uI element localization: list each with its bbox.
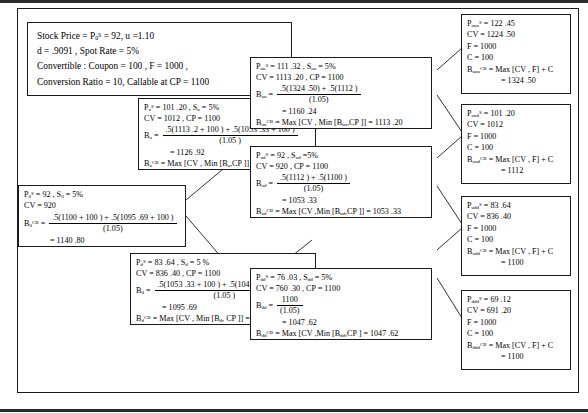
node-ddd-cv: CV = 691 .20	[467, 305, 565, 316]
node-udd-c: C = 100	[467, 234, 565, 245]
node-ddd-b: BdddCB = Max [CV , F] + C	[467, 340, 565, 351]
node-ddd-c: C = 100	[467, 328, 565, 339]
node-ud-cv: CV = 920 , CP = 1100	[256, 161, 426, 172]
node-dd-denominator: (1.05)	[277, 306, 303, 317]
node-ud-max: BudCB = Max [CV ,Min [Bud,CP ]] = 1053 .…	[256, 206, 426, 217]
node-uud-price: PuudS = 101 .20	[467, 108, 565, 119]
node-d-price: PdS = 83 .64 , Sd = 5 %	[136, 257, 310, 268]
node-ud-denominator: (1.05)	[277, 184, 350, 195]
node-uuu-b: BuuuCB = Max [CV , F] + C	[467, 64, 565, 75]
node-dd-max: BddCB = Max [CV ,Min [Bdd,CP ] = 1047 .6…	[256, 328, 426, 339]
bottom-rule	[0, 409, 588, 412]
node-ud-result: = 1053 .33	[256, 195, 426, 206]
node-udd-result: = 1100	[467, 257, 565, 268]
node-0-numerator: .5(1100 + 100 ) + .5(1095 .69 + 100 )	[49, 213, 176, 225]
node-uu-cv: CV = 1113 .20 , CP = 1100	[256, 72, 426, 83]
top-rule	[0, 0, 588, 3]
assumption-line-3: Convertible : Coupon = 100 , F = 1000 ,	[37, 59, 282, 74]
node-uud-cv: CV = 1012	[467, 119, 565, 130]
node-0-cv: CV = 920	[24, 200, 180, 211]
node-udd-b: BuddCB = Max [CV , F] + C	[467, 246, 565, 257]
node-ud-bond-formula: Bud = .5(1112 ) + .5(1100 ) (1.05)	[256, 173, 426, 195]
node-uud-f: F = 1000	[467, 131, 565, 142]
node-uuu-price: PuuuS = 122 .45	[467, 18, 565, 29]
node-dd-bond-formula: Bdd = 1100 (1.05)	[256, 295, 426, 317]
node-uu-numerator: .5(1324 .50) + .5(1112 )	[277, 84, 360, 96]
node-uud-b: BuudCB = Max [CV , F] + C	[467, 154, 565, 165]
node-dd-price: PddS = 76 .03 , Sdd = 5%	[256, 272, 426, 283]
node-0-bond-formula: B0CB = .5(1100 + 100 ) + .5(1095 .69 + 1…	[24, 213, 180, 235]
node-dd: PddS = 76 .03 , Sdd = 5% CV = 760 .30 , …	[250, 268, 432, 340]
node-ddd-result: = 1100	[467, 351, 565, 362]
node-ddd-price: PdddS = 69 .12	[467, 294, 565, 305]
node-uud-c: C = 100	[467, 142, 565, 153]
node-udd: PuddS = 83 .64 CV = 836 .40 F = 1000 C =…	[461, 196, 571, 276]
node-ud-numerator: .5(1112 ) + .5(1100 )	[277, 173, 350, 185]
node-udd-f: F = 1000	[467, 223, 565, 234]
assumption-line-2: d = .9091 , Spot Rate = 5%	[37, 44, 282, 59]
node-udd-price: PuddS = 83 .64	[467, 200, 565, 211]
node-0-denominator: (1.05)	[49, 224, 176, 235]
node-ddd: PdddS = 69 .12 CV = 691 .20 F = 1000 C =…	[461, 290, 571, 370]
node-uu-denominator: (1.05)	[277, 95, 360, 106]
node-uu-price: PuuS = 111 .32 , Suu = 5%	[256, 61, 426, 72]
assumption-line-4: Conversion Ratio = 10, Callable at CP = …	[37, 75, 282, 90]
assumption-line-1: Stock Price = P0S = 92, u =1.10	[37, 29, 282, 44]
node-0: P0S = 92 , S0 = 5% CV = 920 B0CB = .5(11…	[18, 185, 186, 247]
node-uu-max: BuuCB = Max [CV , Min [Buu,CP ]] = 1113 …	[256, 117, 426, 128]
node-udd-cv: CV = 836 .40	[467, 211, 565, 222]
node-dd-result: = 1047 .62	[256, 317, 426, 328]
node-uu-bond-formula: Buu = .5(1324 .50) + .5(1112 ) (1.05)	[256, 84, 426, 106]
node-uuu-result: = 1324 .50	[467, 75, 565, 86]
node-uuu-f: F = 1000	[467, 41, 565, 52]
node-uud: PuudS = 101 .20 CV = 1012 F = 1000 C = 1…	[461, 104, 571, 184]
node-uuu-c: C = 100	[467, 52, 565, 63]
node-ddd-f: F = 1000	[467, 317, 565, 328]
node-ud: PudS = 92 , Sud =5% CV = 920 , CP = 1100…	[250, 146, 432, 218]
node-uu-result: = 1160 .24	[256, 106, 426, 117]
node-ud-price: PudS = 92 , Sud =5%	[256, 150, 426, 161]
figure-canvas: Stock Price = P0S = 92, u =1.10 d = .909…	[0, 0, 588, 413]
node-uuu: PuuuS = 122 .45 CV = 1224 .50 F = 1000 C…	[461, 14, 571, 94]
node-dd-cv: CV = 760 .30 , CP = 1100	[256, 283, 426, 294]
node-0-price: P0S = 92 , S0 = 5%	[24, 189, 180, 200]
node-0-result: = 1140 .80	[24, 235, 180, 246]
node-uuu-cv: CV = 1224 .50	[467, 29, 565, 40]
node-uu: PuuS = 111 .32 , Suu = 5% CV = 1113 .20 …	[250, 57, 432, 129]
node-uud-result: = 1112	[467, 165, 565, 176]
node-dd-numerator: 1100	[277, 295, 303, 307]
